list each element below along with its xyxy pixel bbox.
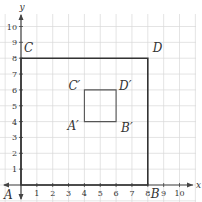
y-tick-label: 8 bbox=[12, 54, 17, 63]
vertex-label-A: A bbox=[3, 188, 13, 202]
x-tick-label: 8 bbox=[145, 189, 150, 198]
vertex-label-C-prime: C′ bbox=[68, 79, 80, 93]
x-axis-arrow-icon bbox=[187, 183, 193, 188]
vertex-label-D: D bbox=[152, 41, 163, 55]
y-tick-label: 9 bbox=[12, 38, 17, 47]
vertex-label-D-prime: D′ bbox=[118, 79, 132, 93]
x-axis-arrow-left-icon bbox=[3, 183, 9, 188]
x-tick-label: 10 bbox=[174, 189, 184, 198]
coordinate-plane-figure: xy 1234567891012345678910 ABDCA′B′D′C′ bbox=[0, 0, 202, 202]
y-axis-label: y bbox=[19, 2, 26, 12]
x-tick-label: 5 bbox=[98, 189, 103, 198]
y-tick-label: 5 bbox=[12, 102, 17, 111]
y-tick-label: 6 bbox=[12, 86, 17, 95]
axes: xy bbox=[3, 2, 201, 200]
x-tick-label: 2 bbox=[50, 189, 55, 198]
vertex-label-B: B bbox=[150, 187, 160, 201]
x-tick-label: 4 bbox=[82, 189, 87, 198]
y-axis-arrow-down-icon bbox=[19, 194, 24, 200]
y-tick-label: 1 bbox=[12, 165, 17, 174]
vertex-label-C: C bbox=[24, 41, 33, 55]
x-tick-label: 9 bbox=[161, 189, 166, 198]
y-tick-label: 10 bbox=[7, 23, 17, 32]
vertex-label-A-prime: A′ bbox=[66, 119, 79, 133]
y-tick-label: 2 bbox=[12, 149, 17, 158]
y-axis-arrow-icon bbox=[19, 14, 24, 20]
y-tick-label: 7 bbox=[12, 70, 17, 79]
x-tick-label: 6 bbox=[114, 189, 119, 198]
x-tick-label: 7 bbox=[129, 189, 134, 198]
coordinate-plane: xy 1234567891012345678910 ABDCA′B′D′C′ bbox=[0, 0, 202, 202]
y-tick-label: 4 bbox=[12, 118, 17, 127]
x-axis-label: x bbox=[196, 180, 201, 190]
y-tick-label: 3 bbox=[12, 133, 17, 142]
x-tick-label: 1 bbox=[34, 189, 39, 198]
vertex-label-B-prime: B′ bbox=[120, 121, 133, 135]
x-tick-label: 3 bbox=[66, 189, 71, 198]
